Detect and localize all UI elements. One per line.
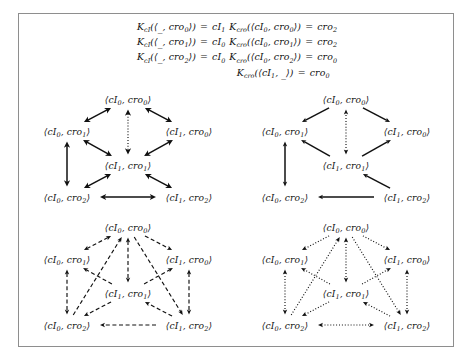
edge-n00-n10 (145, 236, 169, 249)
node-label-n10: ⟨cI1, cro0⟩ (165, 254, 213, 265)
equation-column-kci: KcI(⟨_, cro0⟩) = cI1KcI(⟨_, cro1⟩) = cI0… (137, 20, 225, 66)
diagram-bottom-right: ⟨cI0, cro0⟩⟨cI0, cro1⟩⟨cI1, cro0⟩⟨cI1, c… (237, 212, 455, 341)
node-label-n11: ⟨cI1, cro1⟩ (104, 288, 152, 299)
edge-n00-n01 (305, 108, 329, 121)
diagram-bottom-left: ⟨cI0, cro0⟩⟨cI0, cro1⟩⟨cI1, cro0⟩⟨cI1, c… (19, 212, 237, 341)
edge-n11-n01 (86, 270, 112, 284)
edge-n11-n02 (88, 176, 107, 186)
figure-page: KcI(⟨_, cro0⟩) = cI1KcI(⟨_, cro1⟩) = cI0… (0, 0, 472, 360)
edge-n11-n01 (304, 270, 330, 284)
equation-column-kcro: Kcro(⟨cI0, cro0⟩) = cro2Kcro(⟨cI0, cro1⟩… (229, 20, 337, 81)
edge-n11-n01 (304, 142, 330, 156)
equation-kcro-0: Kcro(⟨cI0, cro0⟩) = cro2 (229, 20, 337, 35)
node-label-n12: ⟨cI1, cro2⟩ (165, 192, 213, 203)
edge-n00-n01 (88, 110, 107, 120)
node-label-n01: ⟨cI0, cro1⟩ (261, 126, 309, 137)
edge-n00-n12 (352, 237, 399, 312)
diagram-grid: ⟨cI0, cro0⟩⟨cI0, cro1⟩⟨cI1, cro0⟩⟨cI1, c… (19, 86, 455, 344)
node-label-n12: ⟨cI1, cro2⟩ (383, 192, 431, 203)
edge-n11-n12 (149, 176, 168, 186)
node-label-n02: ⟨cI0, cro2⟩ (43, 192, 91, 203)
node-label-n01: ⟨cI0, cro1⟩ (43, 254, 91, 265)
equation-kci-2: KcI(⟨_, cro2⟩) = cI0 (137, 50, 225, 65)
edge-n12-n11 (366, 176, 390, 189)
node-label-n11: ⟨cI1, cro1⟩ (322, 288, 370, 299)
edge-n00-n10 (149, 110, 168, 120)
edge-n00-n01 (305, 236, 329, 249)
node-label-n00: ⟨cI0, cro0⟩ (104, 222, 152, 233)
equation-kcro-1: Kcro(⟨cI0, cro1⟩) = cro2 (229, 35, 337, 50)
diagram-top-right: ⟨cI0, cro0⟩⟨cI0, cro1⟩⟨cI1, cro0⟩⟨cI1, c… (237, 86, 455, 215)
node-label-n01: ⟨cI0, cro1⟩ (261, 254, 309, 265)
node-label-n00: ⟨cI0, cro0⟩ (322, 94, 370, 105)
node-label-n12: ⟨cI1, cro2⟩ (165, 320, 213, 331)
diagram-top-left: ⟨cI0, cro0⟩⟨cI0, cro1⟩⟨cI1, cro0⟩⟨cI1, c… (19, 86, 237, 215)
edge-n11-n02 (305, 302, 329, 315)
node-label-n10: ⟨cI1, cro0⟩ (383, 254, 431, 265)
node-label-n02: ⟨cI0, cro2⟩ (43, 320, 91, 331)
edge-n00-n12 (134, 237, 181, 312)
edge-n02-n00 (291, 240, 338, 315)
node-label-n00: ⟨cI0, cro0⟩ (104, 94, 152, 105)
node-label-n02: ⟨cI0, cro2⟩ (261, 320, 309, 331)
edge-n11-n02 (87, 302, 111, 315)
edge-n12-n11 (366, 304, 390, 317)
figure-frame: KcI(⟨_, cro0⟩) = cI1KcI(⟨_, cro1⟩) = cI0… (18, 13, 454, 347)
edge-n11-n10 (362, 270, 388, 284)
edge-n12-n11 (148, 304, 172, 317)
node-label-n00: ⟨cI0, cro0⟩ (322, 222, 370, 233)
edge-n10-n11 (148, 142, 169, 154)
edge-n00-n10 (363, 236, 387, 249)
edge-n11-n10 (144, 270, 170, 284)
equation-kci-1: KcI(⟨_, cro1⟩) = cI0 (137, 35, 225, 50)
node-label-n10: ⟨cI1, cro0⟩ (165, 126, 213, 137)
edge-n00-n01 (87, 238, 108, 249)
node-label-n01: ⟨cI0, cro1⟩ (43, 126, 91, 137)
equation-kcro-2: Kcro(⟨cI0, cro2⟩) = cro0 (229, 50, 337, 65)
equation-kci-0: KcI(⟨_, cro0⟩) = cI1 (137, 20, 225, 35)
equation-kcro-3: Kcro(⟨cI1, _⟩) = cro0 (237, 66, 330, 81)
equation-block: KcI(⟨_, cro0⟩) = cI1KcI(⟨_, cro1⟩) = cI0… (19, 20, 455, 81)
node-label-n10: ⟨cI1, cro0⟩ (383, 126, 431, 137)
node-label-n02: ⟨cI0, cro2⟩ (261, 192, 309, 203)
node-label-n11: ⟨cI1, cro1⟩ (104, 160, 152, 171)
edge-n02-n00 (73, 240, 120, 315)
edge-n01-n11 (87, 142, 108, 154)
node-label-n12: ⟨cI1, cro2⟩ (383, 320, 431, 331)
node-label-n11: ⟨cI1, cro1⟩ (322, 160, 370, 171)
edge-n00-n10 (363, 108, 387, 121)
edge-n11-n10 (362, 142, 388, 156)
